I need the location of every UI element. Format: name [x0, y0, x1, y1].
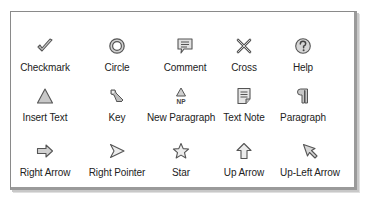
up-arrow-icon: [235, 142, 253, 160]
icon-option-insert-text[interactable]: Insert Text: [5, 87, 85, 131]
icon-option-help[interactable]: Help: [263, 37, 343, 81]
svg-text:NP: NP: [176, 98, 186, 105]
icon-option-label: Help: [253, 62, 353, 73]
cross-icon: [235, 37, 253, 55]
text-note-icon: [235, 87, 253, 105]
icon-option-up-left-arrow[interactable]: Up-Left Arrow: [270, 142, 350, 186]
circle-icon: [108, 37, 126, 55]
icon-chooser-panel: Checkmark Circle Comment Cross Help: [10, 11, 357, 190]
new-paragraph-icon: NP: [172, 87, 190, 105]
icon-grid: Checkmark Circle Comment Cross Help: [11, 12, 354, 187]
comment-icon: [176, 37, 194, 55]
icon-option-label: Paragraph: [253, 112, 353, 123]
icon-option-label: Up-Left Arrow: [260, 167, 360, 178]
right-pointer-icon: [108, 142, 126, 160]
help-icon: [294, 37, 312, 55]
checkmark-icon: [36, 37, 54, 55]
key-icon: [108, 87, 126, 105]
up-left-arrow-icon: [301, 142, 319, 160]
right-arrow-icon: [36, 142, 54, 160]
insert-text-icon: [36, 87, 54, 105]
icon-option-checkmark[interactable]: Checkmark: [5, 37, 85, 81]
star-icon: [172, 142, 190, 160]
icon-option-paragraph[interactable]: Paragraph: [263, 87, 343, 131]
icon-option-right-arrow[interactable]: Right Arrow: [5, 142, 85, 186]
paragraph-icon: [294, 87, 312, 105]
